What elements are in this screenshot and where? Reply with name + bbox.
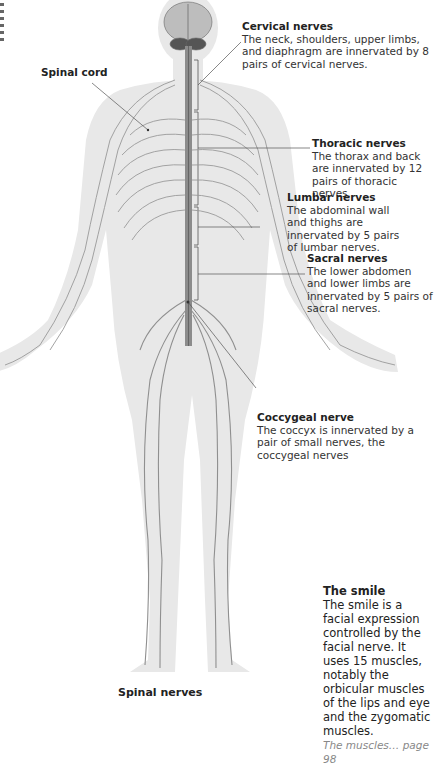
thoracic-nerves-title: Thoracic nerves — [312, 137, 434, 150]
brain — [164, 2, 212, 50]
lumbar-nerves-title: Lumbar nerves — [287, 191, 412, 204]
muscles-page-cross-reference[interactable]: The muscles… page 98 — [323, 738, 434, 766]
smile-note-title: The smile — [323, 584, 434, 598]
lumbar-nerves-annotation: Lumbar nerves The abdominal wall and thi… — [287, 191, 412, 254]
cervical-nerves-title: Cervical nerves — [242, 20, 432, 33]
sacral-nerves-title: Sacral nerves — [307, 252, 434, 265]
cervical-nerves-annotation: Cervical nerves The neck, shoulders, upp… — [242, 20, 432, 70]
figure-caption: Spinal nerves — [118, 686, 202, 699]
coccygeal-nerve-annotation: Coccygeal nerve The coccyx is innervated… — [257, 411, 417, 461]
cervical-nerves-description: The neck, shoulders, upper limbs, and di… — [242, 33, 432, 71]
lumbar-nerves-description: The abdominal wall and thighs are innerv… — [287, 204, 412, 254]
spinal-cord-label: Spinal cord — [41, 66, 108, 78]
smile-sidebar-note: The smile The smile is a facial expressi… — [323, 584, 434, 766]
coccygeal-nerve-title: Coccygeal nerve — [257, 411, 417, 424]
smile-note-body: The smile is a facial expression control… — [323, 598, 430, 738]
sacral-nerves-annotation: Sacral nerves The lower abdomen and lowe… — [307, 252, 434, 315]
coccygeal-nerve-description: The coccyx is innervated by a pair of sm… — [257, 424, 417, 462]
sacral-nerves-description: The lower abdomen and lower limbs are in… — [307, 265, 434, 315]
